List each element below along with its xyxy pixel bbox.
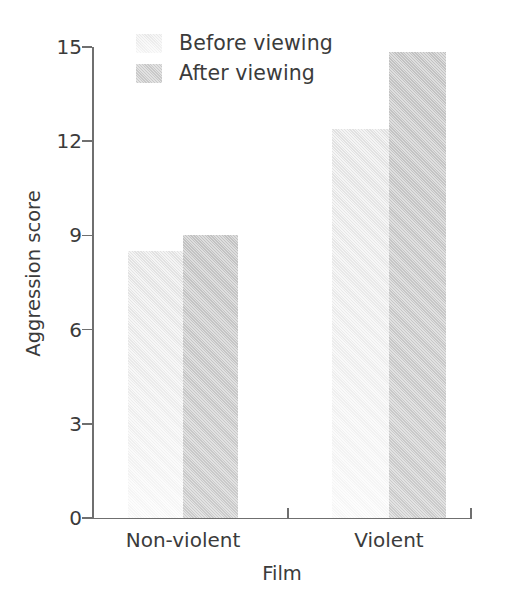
bar-non-violent-after-viewing (183, 235, 238, 518)
bar-chart: Before viewing After viewing 0 3 6 9 12 … (0, 0, 525, 589)
y-axis-tick-15 (82, 46, 92, 48)
legend-label-after-viewing: After viewing (179, 61, 315, 85)
y-axis-tick-12 (82, 140, 92, 142)
x-tick-label-non-violent: Non-violent (73, 528, 293, 552)
legend-label-before-viewing: Before viewing (179, 31, 333, 55)
x-tick-label-violent: Violent (279, 528, 499, 552)
legend-swatch-icon-after-viewing (136, 64, 162, 83)
y-axis-line (92, 47, 94, 519)
x-axis-line (92, 518, 472, 520)
x-axis-tick-right (470, 508, 472, 518)
x-axis-title: Film (92, 562, 472, 585)
bar-violent-before-viewing (332, 129, 389, 518)
y-tick-label-12: 12 (36, 131, 82, 151)
y-tick-label-3: 3 (36, 414, 82, 434)
x-axis-tick-middle (287, 508, 289, 518)
y-axis-title: Aggression score (22, 179, 45, 369)
chart-legend: Before viewing After viewing (136, 28, 356, 88)
bar-violent-after-viewing (389, 52, 446, 518)
y-axis-tick-0 (82, 517, 92, 519)
y-tick-label-0: 0 (36, 508, 82, 528)
y-axis-tick-6 (82, 329, 92, 331)
y-axis-tick-9 (82, 235, 92, 237)
legend-item-before-viewing: Before viewing (136, 28, 356, 58)
legend-swatch-icon-before-viewing (136, 34, 162, 53)
y-axis-tick-3 (82, 423, 92, 425)
y-tick-label-15: 15 (36, 37, 82, 57)
legend-item-after-viewing: After viewing (136, 58, 356, 88)
bar-non-violent-before-viewing (128, 251, 183, 518)
